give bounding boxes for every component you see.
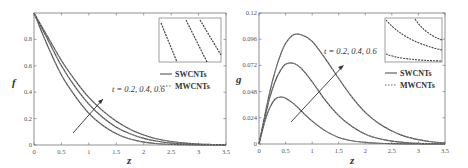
svg-text:2.5: 2.5 (388, 147, 396, 154)
svg-text:0.5: 0.5 (57, 148, 65, 155)
svg-text:0: 0 (254, 140, 257, 147)
svg-text:0.072: 0.072 (242, 61, 257, 68)
svg-text:3: 3 (197, 148, 200, 155)
svg-text:0.024: 0.024 (242, 114, 257, 121)
svg-text:1.5: 1.5 (112, 148, 120, 155)
svg-text:0: 0 (257, 147, 260, 154)
svg-text:2.5: 2.5 (167, 148, 175, 155)
legend-swcnts-f: SWCNTs (175, 70, 207, 79)
svg-text:2: 2 (364, 147, 367, 154)
panel-f: 00.20.40.60.8 00.511.522.533.5 f z t = 0… (12, 13, 230, 166)
legend-mwcnts-g: MWCNTs (400, 81, 435, 90)
arrow-f (73, 99, 103, 133)
panel-g: 00.0240.0480.0720.0960.12 00.511.522.533… (235, 9, 449, 166)
chart-figure: 00.20.40.60.8 00.511.522.533.5 f z t = 0… (0, 0, 468, 168)
svg-text:0.8: 0.8 (24, 35, 32, 42)
svg-text:3: 3 (417, 147, 420, 154)
arrow-g (291, 66, 343, 122)
svg-text:0.12: 0.12 (246, 9, 257, 16)
x-axis-label-f: z (126, 154, 132, 166)
svg-text:0.2: 0.2 (24, 115, 32, 122)
svg-text:0: 0 (32, 148, 35, 155)
svg-text:3.5: 3.5 (222, 148, 230, 155)
svg-text:0: 0 (29, 141, 32, 148)
svg-text:3.5: 3.5 (441, 147, 449, 154)
svg-text:0.5: 0.5 (282, 147, 290, 154)
legend-swcnts-g: SWCNTs (400, 69, 432, 78)
svg-text:1.5: 1.5 (335, 147, 343, 154)
figure-canvas: 00.20.40.60.8 00.511.522.533.5 f z t = 0… (0, 0, 468, 168)
x-axis-label-g: z (349, 154, 355, 166)
y-axis-label-g: g (235, 73, 242, 85)
svg-text:0.6: 0.6 (24, 62, 33, 69)
svg-text:2: 2 (142, 148, 145, 155)
svg-text:1: 1 (87, 148, 90, 155)
annotation-f: t = 0.2, 0.4, 0.6 (112, 84, 165, 94)
svg-text:0.096: 0.096 (242, 35, 257, 42)
arrowhead-icon-g (338, 65, 344, 70)
y-axis-label-f: f (12, 76, 17, 88)
svg-text:0.048: 0.048 (242, 88, 257, 95)
svg-text:0.4: 0.4 (24, 88, 33, 95)
svg-text:1: 1 (311, 147, 314, 154)
annotation-g: t = 0.2, 0.4, 0.6 (324, 46, 377, 56)
legend-mwcnts-f: MWCNTs (175, 82, 210, 91)
